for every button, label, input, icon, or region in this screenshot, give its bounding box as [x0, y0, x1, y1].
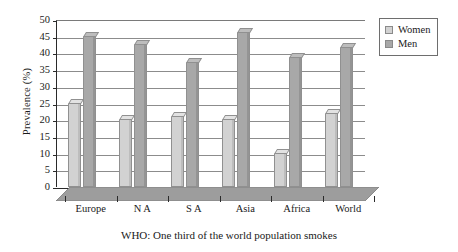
- bar-group: [274, 20, 302, 187]
- bar-top-3d: [83, 32, 99, 37]
- x-tick-label-asia: Asia: [236, 203, 255, 214]
- bar-side-3d: [78, 101, 81, 188]
- bar-world-women: [325, 109, 338, 187]
- chart-legend: WomenMen: [379, 18, 438, 56]
- bar-top-3d: [274, 149, 290, 154]
- bar-asia-women: [222, 115, 235, 187]
- legend-swatch-men: [385, 40, 393, 48]
- y-tick-label: 50: [24, 15, 50, 25]
- x-tick-mark: [65, 196, 66, 202]
- legend-item-men: Men: [385, 37, 430, 51]
- legend-label: Men: [398, 38, 417, 50]
- y-tick-label: 15: [24, 132, 50, 142]
- x-tick-label-s-a: S A: [186, 203, 201, 214]
- bar-side-3d: [232, 117, 235, 187]
- y-tick-label: 40: [24, 48, 50, 58]
- bar-side-3d: [335, 111, 338, 187]
- x-tick-mark: [374, 196, 375, 202]
- x-tick-label-europe: Europe: [76, 203, 106, 214]
- x-axis-tick-labels: EuropeN AS AAsiaAfricaWorld: [56, 203, 379, 219]
- bar-top-3d: [171, 112, 187, 117]
- bar-top-3d: [68, 99, 84, 104]
- legend-item-women: Women: [385, 23, 430, 37]
- bar-s-a-men: [186, 58, 199, 187]
- bar-s-a-women: [171, 112, 184, 187]
- x-tick-mark: [271, 196, 272, 202]
- bar-top-3d: [340, 43, 356, 48]
- bar-side-3d: [284, 151, 287, 187]
- bar-top-3d: [222, 115, 238, 120]
- bar-side-3d: [144, 42, 147, 187]
- bar-side-3d: [129, 117, 132, 187]
- bar-side-3d: [350, 45, 353, 187]
- x-tick-mark: [168, 196, 169, 202]
- y-tick-label: 0: [24, 182, 50, 192]
- bar-n-a-men: [134, 40, 147, 187]
- bar-side-3d: [181, 114, 184, 187]
- legend-label: Women: [398, 24, 430, 36]
- bar-top-3d: [119, 115, 135, 120]
- bar-asia-men: [237, 28, 250, 187]
- bar-series-container: [56, 20, 365, 187]
- bar-europe-women: [68, 99, 81, 188]
- bar-side-3d: [247, 30, 250, 187]
- y-tick-label: 10: [24, 149, 50, 159]
- bar-n-a-women: [119, 115, 132, 187]
- x-tick-label-africa: Africa: [283, 203, 310, 214]
- y-tick-label: 35: [24, 65, 50, 75]
- y-tick-label: 30: [24, 82, 50, 92]
- y-tick-label: 20: [24, 115, 50, 125]
- y-tick-label: 5: [24, 165, 50, 175]
- bar-side-3d: [196, 60, 199, 187]
- bar-group: [325, 20, 353, 187]
- bar-europe-men: [83, 32, 96, 187]
- bar-top-3d: [237, 28, 253, 33]
- y-tick-label: 25: [24, 99, 50, 109]
- chart-figure: Prevalence (%) 05101520253035404550 Euro…: [0, 0, 458, 252]
- bar-group: [119, 20, 147, 187]
- y-axis-tick-labels: 05101520253035404550: [24, 0, 50, 252]
- bar-side-3d: [299, 55, 302, 187]
- bar-group: [222, 20, 250, 187]
- y-tick-label: 45: [24, 32, 50, 42]
- bar-africa-women: [274, 149, 287, 187]
- bar-top-3d: [186, 58, 202, 63]
- bar-side-3d: [93, 34, 96, 187]
- x-tick-mark: [117, 196, 118, 202]
- x-tick-label-n-a: N A: [134, 203, 151, 214]
- x-tick-mark: [323, 196, 324, 202]
- bar-africa-men: [289, 53, 302, 187]
- bar-top-3d: [289, 53, 305, 58]
- bar-top-3d: [134, 40, 150, 45]
- bar-top-3d: [325, 109, 341, 114]
- x-tick-mark: [220, 196, 221, 202]
- figure-caption: WHO: One third of the world population s…: [0, 229, 458, 241]
- legend-swatch-women: [385, 26, 393, 34]
- bar-group: [68, 20, 96, 187]
- bar-group: [171, 20, 199, 187]
- x-tick-label-world: World: [335, 203, 361, 214]
- bar-world-men: [340, 43, 353, 187]
